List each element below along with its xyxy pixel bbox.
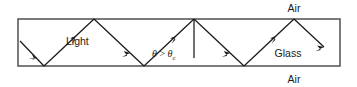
- ray-segment-4: [194, 19, 244, 66]
- label-air-top: Air: [288, 2, 301, 14]
- total-internal-reflection-figure: Air Air Glass Light θ>θc: [0, 0, 357, 87]
- angle-critical-subscript: c: [172, 53, 175, 61]
- incident-ray: [20, 41, 44, 66]
- label-light: Light: [66, 35, 89, 47]
- label-glass: Glass: [275, 47, 302, 59]
- angle-operator: >: [159, 48, 165, 59]
- label-air-bottom: Air: [288, 73, 301, 85]
- angle-theta-symbol: θ: [152, 48, 157, 59]
- ray-segment-6: [294, 19, 324, 47]
- ray-segment-2: [94, 19, 144, 66]
- label-angle-condition: θ>θc: [152, 48, 176, 61]
- ray-segment-5: [244, 19, 294, 66]
- diagram-canvas: Air Air Glass Light θ>θc: [0, 0, 357, 87]
